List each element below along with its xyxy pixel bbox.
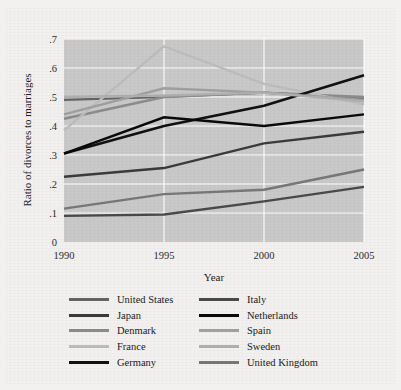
x-tick-label: 1995 (154, 250, 175, 261)
legend-item-germany[interactable]: Germany (69, 354, 193, 370)
legend-swatch-icon (69, 345, 109, 348)
y-axis-tick-labels: 0.1.2.3.4.5.6.7 (49, 34, 58, 248)
legend-swatch-icon (69, 361, 109, 364)
y-tick-label: .4 (49, 121, 58, 132)
x-tick-label: 2000 (254, 250, 275, 261)
legend-item-united-kingdom[interactable]: United Kingdom (199, 354, 323, 370)
legend-item-sweden[interactable]: Sweden (199, 339, 323, 355)
legend-item-japan[interactable]: Japan (69, 308, 193, 324)
legend-swatch-icon (199, 314, 239, 317)
x-tick-label: 1990 (54, 250, 75, 261)
legend-item-label: Japan (117, 310, 141, 321)
legend-swatch-icon (199, 298, 239, 301)
legend-item-label: Netherlands (247, 310, 298, 321)
legend-item-spain[interactable]: Spain (199, 323, 323, 339)
legend-item-label: Sweden (247, 341, 280, 352)
legend-swatch-icon (199, 329, 239, 332)
legend-item-united-states[interactable]: United States (69, 292, 193, 308)
y-tick-label: .5 (49, 92, 57, 103)
x-axis-tick-labels: 1990199520002005 (54, 250, 375, 261)
y-tick-label: .1 (49, 208, 57, 219)
chart-legend: United StatesItalyJapanNetherlandsDenmar… (69, 292, 349, 370)
figure-container: 0.1.2.3.4.5.6.7 1990199520002005 Year Ra… (0, 0, 401, 390)
legend-item-label: Denmark (117, 325, 156, 336)
legend-item-label: United Kingdom (247, 357, 318, 368)
legend-item-italy[interactable]: Italy (199, 292, 323, 308)
legend-swatch-icon (69, 329, 109, 332)
legend-swatch-icon (199, 361, 239, 364)
legend-item-label: United States (117, 294, 173, 305)
legend-swatch-icon (199, 345, 239, 348)
x-tick-label: 2005 (354, 250, 375, 261)
legend-item-label: Italy (247, 294, 266, 305)
y-axis-title: Ratio of divorces to marriages (21, 73, 33, 206)
y-tick-label: .6 (49, 63, 57, 74)
y-tick-label: 0 (52, 237, 57, 248)
legend-item-netherlands[interactable]: Netherlands (199, 308, 323, 324)
y-tick-label: .3 (49, 150, 57, 161)
legend-item-france[interactable]: France (69, 339, 193, 355)
y-tick-label: .7 (49, 34, 57, 45)
legend-item-label: Germany (117, 357, 156, 368)
legend-item-label: France (117, 341, 146, 352)
figure-inner-panel: 0.1.2.3.4.5.6.7 1990199520002005 Year Ra… (6, 6, 395, 384)
legend-item-denmark[interactable]: Denmark (69, 323, 193, 339)
legend-item-label: Spain (247, 325, 271, 336)
x-axis-title: Year (204, 271, 225, 283)
legend-swatch-icon (69, 314, 109, 317)
y-tick-label: .2 (49, 179, 57, 190)
legend-swatch-icon (69, 298, 109, 301)
legend-grid: United StatesItalyJapanNetherlandsDenmar… (69, 292, 349, 370)
